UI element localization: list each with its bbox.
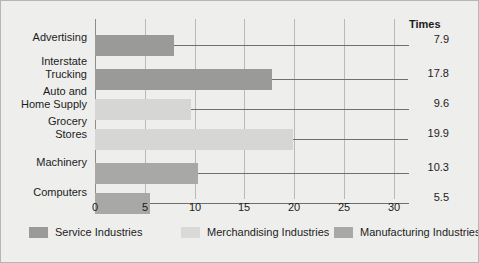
- legend: Service Industries Merchandising Industr…: [29, 225, 459, 243]
- y-axis-label-line: Grocery: [1, 115, 87, 128]
- leader-line-auto-and-home-supply: [191, 109, 409, 110]
- y-axis-label-interstate-trucking: Interstate Trucking: [1, 55, 87, 80]
- x-tick-0: 0: [80, 201, 110, 213]
- y-axis-label-machinery: Machinery: [1, 156, 87, 169]
- y-axis-label-advertising: Advertising: [1, 31, 87, 44]
- value-label-interstate-trucking: 17.8: [409, 67, 449, 79]
- x-tick-5: 5: [130, 201, 160, 213]
- x-tick-10: 10: [180, 201, 210, 213]
- value-label-grocery-stores: 19.9: [409, 127, 449, 139]
- value-label-computers: 5.5: [409, 191, 449, 203]
- legend-swatch-icon: [334, 227, 353, 238]
- legend-swatch-icon: [29, 227, 48, 238]
- y-axis-label-line: Advertising: [1, 31, 87, 44]
- bar-advertising: [95, 35, 174, 56]
- legend-item-merchandising-industries: Merchandising Industries: [181, 225, 329, 239]
- plot-area: [95, 19, 394, 199]
- y-axis-label-line: Stores: [1, 128, 87, 141]
- y-axis-label-grocery-stores: Grocery Stores: [1, 115, 87, 140]
- leader-line-advertising: [174, 45, 409, 46]
- value-label-auto-and-home-supply: 9.6: [409, 97, 449, 109]
- y-axis-label-line: Trucking: [1, 68, 87, 81]
- bar-auto-and-home-supply: [95, 99, 191, 120]
- leader-line-interstate-trucking: [272, 79, 408, 80]
- times-column-header: Times: [409, 18, 471, 30]
- y-axis-label-line: Computers: [1, 186, 87, 199]
- y-axis-label-line: Interstate: [1, 55, 87, 68]
- y-axis-label-line: Home Supply: [1, 98, 87, 111]
- legend-label: Service Industries: [55, 226, 142, 238]
- bar-machinery: [95, 163, 198, 184]
- leader-line-machinery: [198, 173, 409, 174]
- y-axis-label-computers: Computers: [1, 186, 87, 199]
- legend-item-service-industries: Service Industries: [29, 225, 142, 239]
- bar-interstate-trucking: [95, 69, 272, 90]
- bar-grocery-stores: [95, 129, 293, 150]
- value-label-machinery: 10.3: [409, 161, 449, 173]
- legend-label: Merchandising Industries: [207, 226, 329, 238]
- y-axis-label-auto-and-home-supply: Auto and Home Supply: [1, 85, 87, 110]
- leader-line-grocery-stores: [293, 139, 408, 140]
- legend-item-manufacturing-industries: Manufacturing Industries: [334, 225, 479, 239]
- legend-label: Manufacturing Industries: [360, 226, 479, 238]
- x-tick-15: 15: [229, 201, 259, 213]
- x-tick-30: 30: [379, 201, 409, 213]
- legend-swatch-icon: [181, 227, 200, 238]
- x-tick-20: 20: [279, 201, 309, 213]
- x-tick-25: 25: [329, 201, 359, 213]
- value-label-advertising: 7.9: [409, 33, 449, 45]
- y-axis-label-line: Machinery: [1, 156, 87, 169]
- y-axis-label-line: Auto and: [1, 85, 87, 98]
- bar-chart: Advertising Interstate Trucking Auto and…: [0, 0, 479, 263]
